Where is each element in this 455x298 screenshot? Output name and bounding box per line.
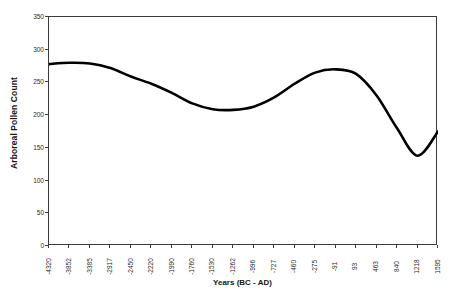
x-tick-label-text: -727 xyxy=(270,260,277,273)
y-tick-label: 0 xyxy=(22,242,44,249)
x-tick-label-text: 463 xyxy=(372,261,379,272)
x-tick-mark xyxy=(273,245,274,248)
x-tick-label-text: -2220 xyxy=(147,258,154,275)
x-tick-label-text: 1218 xyxy=(413,259,420,273)
x-tick-label-text: -275 xyxy=(311,260,318,273)
x-tick-mark xyxy=(171,245,172,248)
y-tick-label: 50 xyxy=(22,209,44,216)
x-tick-mark xyxy=(130,245,131,248)
x-tick-label-text: -996 xyxy=(249,260,256,273)
x-tick-mark xyxy=(253,245,254,248)
x-tick-mark xyxy=(212,245,213,248)
y-axis-title-text: Arboreal Pollen Count xyxy=(9,77,19,169)
x-tick-mark xyxy=(376,245,377,248)
x-tick-label-text: 840 xyxy=(393,261,400,272)
x-tick-label-text: -460 xyxy=(290,260,297,273)
x-tick-mark xyxy=(191,245,192,248)
x-tick-mark xyxy=(335,245,336,248)
x-tick-mark xyxy=(355,245,356,248)
x-tick-mark xyxy=(294,245,295,248)
x-tick-mark xyxy=(232,245,233,248)
x-tick-label-text: -3852 xyxy=(65,258,72,275)
y-tick-label: 300 xyxy=(22,45,44,52)
x-tick-label-text: -3385 xyxy=(85,258,92,275)
plot-area xyxy=(48,16,437,245)
x-tick-mark xyxy=(314,245,315,248)
x-tick-mark xyxy=(68,245,69,248)
y-tick-label: 250 xyxy=(22,78,44,85)
x-tick-mark xyxy=(109,245,110,248)
x-axis-title: Years (BC - AD) xyxy=(48,278,437,287)
x-tick-mark xyxy=(437,245,438,248)
y-tick-label: 350 xyxy=(22,13,44,20)
x-tick-label-text: -2917 xyxy=(106,258,113,275)
x-tick-label-text: -4320 xyxy=(45,258,52,275)
data-series-curve xyxy=(49,17,438,246)
x-tick-mark xyxy=(150,245,151,248)
x-tick-label-text: -91 xyxy=(331,262,338,271)
y-tick-label: 200 xyxy=(22,111,44,118)
x-tick-label-text: -1530 xyxy=(208,258,215,275)
x-tick-mark xyxy=(396,245,397,248)
x-tick-label-text: 93 xyxy=(352,263,359,270)
x-tick-label-text: -1760 xyxy=(188,258,195,275)
x-tick-mark xyxy=(48,245,49,248)
x-tick-label-text: -1262 xyxy=(229,258,236,275)
y-tick-label: 100 xyxy=(22,176,44,183)
pollen-count-line-chart: Arboreal Pollen Count 350300250200150100… xyxy=(0,0,455,298)
x-tick-mark xyxy=(89,245,90,248)
x-tick-label-text: 1595 xyxy=(434,259,441,273)
y-axis-title: Arboreal Pollen Count xyxy=(6,0,22,245)
x-tick-mark xyxy=(417,245,418,248)
x-tick-label-text: -2450 xyxy=(126,258,133,275)
x-tick-label-text: -1990 xyxy=(167,258,174,275)
arboreal-pollen-count-line xyxy=(49,63,438,156)
y-tick-label: 150 xyxy=(22,143,44,150)
